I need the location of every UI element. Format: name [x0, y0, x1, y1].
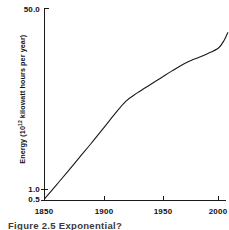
data-line-series: [45, 33, 228, 199]
plot-area: [0, 0, 229, 230]
figure-caption: Figure 2.5 Exponential?: [8, 220, 122, 230]
figure-container: Energy (1012 kilowatt hours per year) 50…: [0, 0, 229, 230]
